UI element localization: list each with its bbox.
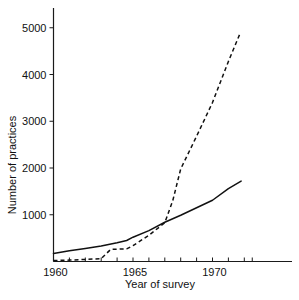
x-axis-tick-labels: 196019651970 — [43, 266, 226, 278]
data-series-dashed — [54, 35, 240, 261]
y-tick-label: 3000 — [22, 115, 46, 127]
data-series-solid — [54, 181, 242, 253]
y-axis-title: Number of practices — [6, 115, 18, 214]
x-tick-label: 1960 — [43, 266, 67, 278]
y-tick-label: 4000 — [22, 69, 46, 81]
chart-figure: 10002000300040005000 196019651970 Number… — [0, 0, 299, 300]
y-tick-label: 1000 — [22, 209, 46, 221]
y-tick-label: 2000 — [22, 162, 46, 174]
x-tick-label: 1970 — [202, 266, 226, 278]
x-axis-title: Year of survey — [125, 278, 195, 290]
line-chart-svg: 10002000300040005000 196019651970 Number… — [0, 0, 299, 300]
x-tick-label: 1965 — [123, 266, 147, 278]
y-tick-label: 5000 — [22, 22, 46, 34]
y-axis-tick-labels: 10002000300040005000 — [22, 22, 46, 221]
